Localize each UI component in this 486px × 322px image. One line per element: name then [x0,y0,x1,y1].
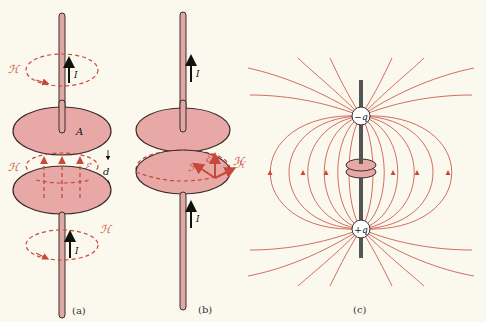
label-h-side: ℋ [236,160,247,170]
label-gap-d: d [103,166,109,177]
label-e-field-b: ℰ [205,152,213,165]
wire-bottom [59,212,65,318]
label-h-bottom: ℋ [100,223,113,236]
panel-a: ℋ I A ℋ ℰ d ℋ I (a) [8,13,113,318]
label-current-bottom: I [74,246,79,256]
label-h-mid: ℋ [8,161,21,174]
label-current-top-b: I [195,69,200,79]
panel-c: ℋ −q +q (c) [236,58,474,315]
caption-c: (c) [353,304,367,315]
label-current-bottom-b: I [195,214,200,224]
label-plate-area: A [75,126,83,137]
label-h-top: ℋ [8,63,21,76]
label-current-top: I [73,70,78,80]
caption-b: (b) [198,304,212,315]
panel-b: I ℱ ℰ ℋ I (b) [136,12,246,315]
caption-a: (a) [72,305,86,316]
svg-text:−q: −q [354,112,368,122]
wire-bottom-b [180,192,186,310]
capacitor-field-diagram: ℋ I A ℋ ℰ d ℋ I (a) [0,0,486,322]
svg-text:+q: +q [354,225,368,235]
